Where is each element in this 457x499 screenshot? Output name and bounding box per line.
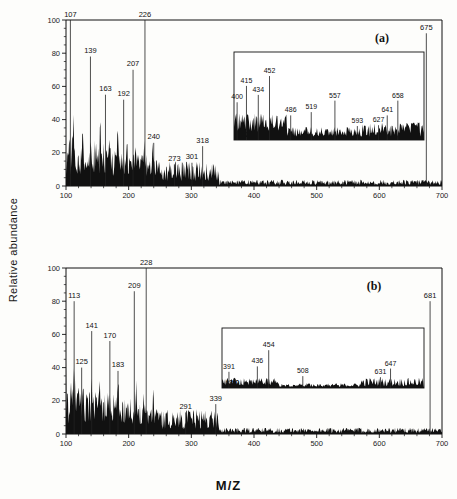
svg-text:434: 434 [252, 86, 264, 93]
panel-b-plot: 1008060402001002003004005006007001131251… [52, 262, 444, 454]
svg-text:300: 300 [185, 439, 198, 448]
svg-text:400: 400 [248, 439, 261, 448]
svg-text:486: 486 [285, 106, 297, 113]
svg-text:80: 80 [52, 49, 60, 58]
svg-text:40: 40 [52, 115, 60, 124]
svg-text:600: 600 [373, 439, 386, 448]
svg-text:454: 454 [263, 341, 275, 348]
svg-text:300: 300 [185, 191, 198, 200]
svg-text:107: 107 [64, 10, 77, 19]
svg-text:500: 500 [310, 439, 323, 448]
svg-text:631: 631 [375, 368, 387, 375]
svg-text:658: 658 [392, 92, 404, 99]
svg-text:675: 675 [420, 23, 433, 32]
svg-text:(a): (a) [375, 31, 389, 45]
svg-text:100: 100 [47, 16, 60, 25]
svg-text:600: 600 [373, 191, 386, 200]
svg-text:40: 40 [52, 363, 60, 372]
svg-text:226: 226 [139, 10, 152, 19]
svg-text:627: 627 [373, 116, 385, 123]
panel-a-plot: 1008060402001002003004005006007001071391… [52, 14, 444, 206]
svg-text:200: 200 [122, 439, 135, 448]
svg-text:519: 519 [305, 103, 317, 110]
mass-spectrum-figure: Relative abundance 100806040200100200300… [0, 0, 457, 499]
svg-text:240: 240 [147, 132, 160, 141]
svg-text:*3.0: *3.0 [226, 378, 239, 387]
svg-text:681: 681 [424, 291, 437, 300]
svg-text:301: 301 [186, 152, 199, 161]
svg-text:207: 207 [127, 59, 140, 68]
svg-text:400: 400 [231, 93, 243, 100]
svg-text:*12.0: *12.0 [238, 130, 256, 139]
svg-text:647: 647 [385, 360, 397, 367]
svg-text:100: 100 [60, 191, 73, 200]
svg-text:60: 60 [52, 330, 60, 339]
svg-text:557: 557 [329, 92, 341, 99]
svg-text:100: 100 [47, 264, 60, 273]
svg-text:200: 200 [122, 191, 135, 200]
x-axis-label: M/Z [0, 478, 457, 493]
svg-text:125: 125 [75, 357, 88, 366]
svg-text:(b): (b) [367, 279, 382, 293]
svg-text:100: 100 [60, 439, 73, 448]
svg-text:508: 508 [297, 367, 309, 374]
svg-text:80: 80 [52, 297, 60, 306]
y-axis-label: Relative abundance [2, 0, 24, 499]
svg-text:0: 0 [56, 430, 60, 439]
svg-text:700: 700 [436, 191, 449, 200]
svg-text:700: 700 [436, 439, 449, 448]
svg-text:0: 0 [56, 182, 60, 191]
panel-b: 1008060402001002003004005006007001131251… [52, 262, 442, 452]
svg-text:183: 183 [112, 360, 125, 369]
svg-text:60: 60 [52, 82, 60, 91]
svg-text:20: 20 [52, 396, 60, 405]
svg-text:228: 228 [140, 258, 153, 267]
svg-text:593: 593 [352, 117, 364, 124]
svg-text:291: 291 [179, 402, 192, 411]
svg-text:452: 452 [264, 67, 276, 74]
svg-text:400: 400 [248, 191, 261, 200]
svg-text:113: 113 [68, 291, 80, 300]
svg-text:141: 141 [85, 321, 98, 330]
svg-text:391: 391 [223, 363, 235, 370]
svg-text:192: 192 [117, 89, 130, 98]
svg-text:339: 339 [210, 394, 223, 403]
svg-text:139: 139 [84, 46, 97, 55]
svg-text:20: 20 [52, 148, 60, 157]
svg-text:163: 163 [99, 84, 112, 93]
svg-text:273: 273 [168, 154, 181, 163]
svg-text:500: 500 [310, 191, 323, 200]
svg-text:209: 209 [128, 281, 141, 290]
svg-text:170: 170 [104, 331, 117, 340]
svg-text:318: 318 [196, 136, 209, 145]
svg-text:415: 415 [241, 77, 253, 84]
svg-text:436: 436 [252, 357, 264, 364]
svg-text:641: 641 [381, 106, 393, 113]
y-axis-label-text: Relative abundance [7, 197, 19, 301]
panel-a: 1008060402001002003004005006007001071391… [52, 14, 442, 204]
